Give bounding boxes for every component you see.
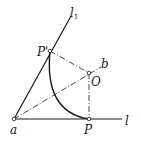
label-l1-sub: 1 <box>74 13 78 21</box>
segment-p-prime-o <box>50 51 89 73</box>
arc-p-to-p-prime <box>49 51 89 119</box>
label-b: b <box>101 57 109 71</box>
label-o: O <box>91 75 101 89</box>
label-l: l <box>125 114 129 128</box>
point-p <box>87 117 91 121</box>
label-p: P <box>83 123 93 137</box>
point-a <box>12 117 16 121</box>
label-l1: l1 <box>70 6 78 21</box>
geometry-diagram: a P O P' b l l1 <box>0 0 141 142</box>
label-p-prime: P' <box>36 45 48 59</box>
point-p-prime <box>48 49 52 53</box>
line-l1 <box>14 16 71 119</box>
label-a: a <box>10 123 17 137</box>
